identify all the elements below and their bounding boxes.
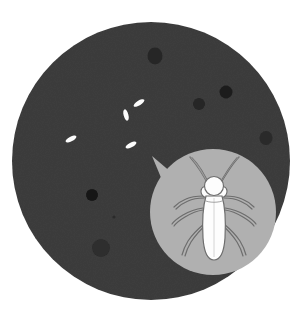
spot-far-right xyxy=(260,131,273,145)
spot-lower-left xyxy=(92,239,110,257)
spot-top xyxy=(148,48,163,65)
spot-upper-right xyxy=(220,86,233,99)
spot-mid-right xyxy=(193,98,205,110)
illustration-svg xyxy=(0,0,301,332)
illustration-canvas xyxy=(0,0,301,332)
head xyxy=(205,177,224,196)
spot-left xyxy=(86,189,98,201)
spot-tiny-center xyxy=(112,215,115,218)
